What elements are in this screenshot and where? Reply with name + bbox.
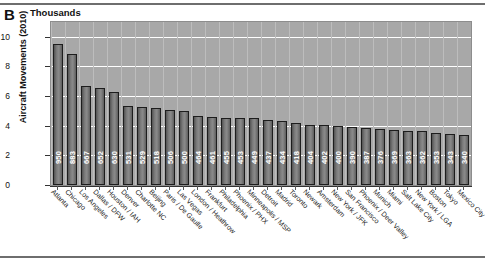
bar-value-label: 363 xyxy=(403,151,412,164)
bar-value-label: 883 xyxy=(67,151,76,164)
bar[interactable]: 531 xyxy=(123,106,133,185)
bar-value-label: 343 xyxy=(445,151,454,164)
bar-value-label: 353 xyxy=(431,151,440,164)
bar-value-label: 500 xyxy=(179,151,188,164)
bar[interactable]: 340 xyxy=(459,135,469,185)
bar[interactable]: 500 xyxy=(179,111,189,185)
bar[interactable]: 453 xyxy=(235,118,245,185)
panel-letter: B xyxy=(4,7,15,22)
x-tick-mark xyxy=(169,186,170,190)
x-tick-mark xyxy=(351,186,352,190)
bar[interactable]: 418 xyxy=(291,123,301,185)
bar[interactable]: 529 xyxy=(137,107,147,185)
x-tick-mark xyxy=(267,186,268,190)
bar[interactable]: 390 xyxy=(347,127,357,185)
x-tick-mark xyxy=(379,186,380,190)
x-tick-mark xyxy=(309,186,310,190)
bar[interactable]: 400 xyxy=(333,126,343,185)
bar[interactable]: 437 xyxy=(263,120,273,185)
x-tick-mark xyxy=(85,186,86,190)
bar[interactable]: 667 xyxy=(81,86,91,185)
y-axis-label: Aircraft Movements (2010) xyxy=(18,0,28,137)
bar-value-label: 418 xyxy=(291,151,300,164)
bar-value-label: 630 xyxy=(109,151,118,164)
bar-value-label: 400 xyxy=(333,151,342,164)
bar-value-label: 518 xyxy=(151,151,160,164)
bar[interactable]: 402 xyxy=(319,125,329,185)
bar-value-label: 434 xyxy=(277,151,286,164)
bar[interactable]: 363 xyxy=(403,131,413,185)
x-tick-mark xyxy=(155,186,156,190)
x-tick-mark xyxy=(449,186,450,190)
bar-value-label: 529 xyxy=(137,151,146,164)
bar[interactable]: 376 xyxy=(375,129,385,185)
bar[interactable]: 518 xyxy=(151,108,161,185)
x-tick-mark xyxy=(211,186,212,190)
x-tick-mark xyxy=(337,186,338,190)
bar[interactable]: 343 xyxy=(445,134,455,185)
y-tick-label: 10 xyxy=(0,32,10,42)
bar[interactable]: 369 xyxy=(389,130,399,185)
bar[interactable]: 455 xyxy=(221,118,231,185)
bar-value-label: 340 xyxy=(459,151,468,164)
x-tick-mark xyxy=(113,186,114,190)
y-tick-label: 2 xyxy=(0,150,10,160)
bar-value-label: 453 xyxy=(235,151,244,164)
bar-value-label: 369 xyxy=(389,151,398,164)
bar-value-label: 652 xyxy=(95,151,104,164)
bar-value-label: 402 xyxy=(319,151,328,164)
bar[interactable]: 449 xyxy=(249,118,259,185)
bar-value-label: 464 xyxy=(193,151,202,164)
bar-value-label: 404 xyxy=(305,151,314,164)
bar[interactable]: 464 xyxy=(193,116,203,185)
bar-value-label: 461 xyxy=(207,151,216,164)
bar-value-label: 390 xyxy=(347,151,356,164)
bar[interactable]: 883 xyxy=(67,54,77,185)
bar-value-label: 376 xyxy=(375,151,384,164)
y-tick-label: 8 xyxy=(0,61,10,71)
bar[interactable]: 461 xyxy=(207,117,217,185)
bar[interactable]: 630 xyxy=(109,92,119,185)
x-tick-mark xyxy=(407,186,408,190)
bar-value-label: 667 xyxy=(81,151,90,164)
x-tick-mark xyxy=(365,186,366,190)
x-tick-mark xyxy=(323,186,324,190)
x-tick-mark xyxy=(435,186,436,190)
bar-value-label: 387 xyxy=(361,151,370,164)
figure-top-rule xyxy=(0,3,485,5)
x-tick-mark xyxy=(295,186,296,190)
x-tick-mark xyxy=(225,186,226,190)
bar[interactable]: 404 xyxy=(305,125,315,185)
bar-value-label: 449 xyxy=(249,151,258,164)
bar[interactable]: 652 xyxy=(95,88,105,185)
bar[interactable]: 362 xyxy=(417,131,427,185)
bar[interactable]: 434 xyxy=(277,121,287,185)
x-tick-mark xyxy=(281,186,282,190)
x-tick-mark xyxy=(99,186,100,190)
x-tick-mark xyxy=(239,186,240,190)
y-tick-label: 4 xyxy=(0,121,10,131)
bar-value-label: 437 xyxy=(263,151,272,164)
gridline-vertical xyxy=(471,22,472,185)
x-axis-category-labels: AtlantaChicagoLos AngelesDallas / DFWHou… xyxy=(0,188,485,259)
x-tick-mark xyxy=(127,186,128,190)
x-tick-mark xyxy=(421,186,422,190)
figure-panel-b: B Thousands Aircraft Movements (2010) 02… xyxy=(0,0,485,259)
bar-value-label: 950 xyxy=(53,151,62,164)
bar[interactable]: 353 xyxy=(431,133,441,185)
x-tick-mark xyxy=(197,186,198,190)
bar-value-label: 455 xyxy=(221,151,230,164)
x-tick-mark xyxy=(183,186,184,190)
x-tick-mark xyxy=(57,186,58,190)
bar-value-label: 531 xyxy=(123,151,132,164)
bar[interactable]: 950 xyxy=(53,44,63,185)
x-tick-mark xyxy=(141,186,142,190)
bar[interactable]: 387 xyxy=(361,128,371,185)
plot-area: 9508836676526305315295185065004644614554… xyxy=(50,21,472,186)
x-tick-mark xyxy=(463,186,464,190)
x-tick-mark xyxy=(393,186,394,190)
x-tick-mark xyxy=(253,186,254,190)
x-tick-mark xyxy=(71,186,72,190)
bar[interactable]: 506 xyxy=(165,110,175,185)
chart-units-title: Thousands xyxy=(30,8,81,18)
